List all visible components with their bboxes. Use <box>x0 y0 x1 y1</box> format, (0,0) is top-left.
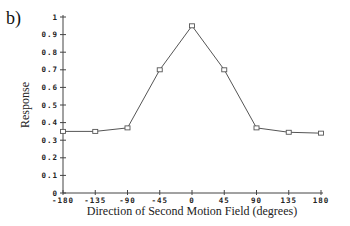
y-tick-label: 0.3 <box>41 136 58 145</box>
data-point-marker <box>157 68 162 72</box>
data-point-marker <box>319 131 324 135</box>
y-tick-label: 0.6 <box>41 83 58 92</box>
y-tick-label: 0.9 <box>41 30 58 39</box>
y-tick-label: 0.4 <box>41 118 58 127</box>
data-point-marker <box>190 24 195 28</box>
y-tick-label: 1 <box>52 13 58 22</box>
data-point-marker <box>222 68 227 72</box>
data-point-marker <box>286 130 291 134</box>
axes <box>63 15 323 193</box>
data-series <box>61 24 324 135</box>
data-point-marker <box>254 126 259 130</box>
panel-label: b) <box>6 8 21 29</box>
data-point-marker <box>61 129 66 133</box>
series-line <box>63 26 321 133</box>
y-tick-label: 0.7 <box>41 65 58 74</box>
x-tick-label: 180 <box>313 196 330 205</box>
y-tick-label: 0.2 <box>41 153 58 162</box>
y-tick-label: 0.8 <box>41 48 58 57</box>
y-axis-ticks: 00.10.20.30.40.50.60.70.80.91 <box>41 13 66 198</box>
data-point-marker <box>125 126 130 130</box>
y-axis-label: Response <box>18 82 32 128</box>
response-chart: b) 00.10.20.30.40.50.60.70.80.91 -180-13… <box>0 0 350 226</box>
data-point-marker <box>93 129 98 133</box>
y-tick-label: 0.1 <box>41 171 58 180</box>
x-tick-label: -180 <box>52 196 74 205</box>
y-tick-label: 0.5 <box>41 101 58 110</box>
x-axis-ticks: -180-135-90-4504590135180 <box>52 190 329 205</box>
x-axis-label: Direction of Second Motion Field (degree… <box>87 204 297 218</box>
